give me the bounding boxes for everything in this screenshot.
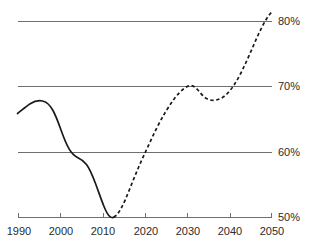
x-axis-group [18,213,272,218]
y-tick-label-50: 50% [278,211,300,223]
chart-canvas: 1990 2000 2010 2020 2030 2040 2050 80% 7… [0,0,321,248]
x-tick-label-2000: 2000 [49,225,73,237]
y-tick-label-80: 80% [278,15,300,27]
x-tick-label-2040: 2040 [218,225,242,237]
x-tick-labels-group: 1990 2000 2010 2020 2030 2040 2050 [7,225,284,237]
y-tick-labels-group: 80% 70% 60% 50% [278,15,300,223]
line-chart: 1990 2000 2010 2020 2030 2040 2050 80% 7… [0,0,321,248]
x-tick-label-2030: 2030 [176,225,200,237]
x-tick-label-2010: 2010 [91,225,115,237]
series-historical-line [18,101,114,218]
gridlines-group [18,22,272,153]
series-projection-line [114,12,272,217]
x-tick-label-1990: 1990 [7,225,31,237]
y-tick-label-60: 60% [278,146,300,158]
x-tick-label-2020: 2020 [134,225,158,237]
y-tick-label-70: 70% [278,80,300,92]
x-tick-label-2050: 2050 [260,225,284,237]
series-group [18,12,272,218]
